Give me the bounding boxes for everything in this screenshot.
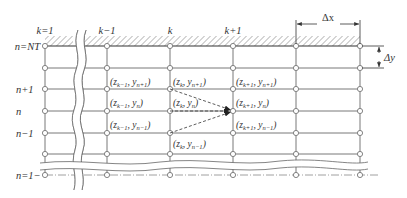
grid-nodes xyxy=(42,43,362,177)
row-label-nt: n=NT xyxy=(15,41,41,52)
row-label-np1: n+1 xyxy=(16,84,34,95)
dx-label: Δx xyxy=(322,12,335,23)
col-label-k1: k=1 xyxy=(37,25,54,36)
dy-dimension xyxy=(362,46,384,68)
horizontal-grid-lines xyxy=(45,46,380,175)
node-label-kp1-nm1: (zk+1, yn−1) xyxy=(236,120,276,131)
dy-label: Δy xyxy=(383,52,395,63)
node-label-k-np1: (zk, yn+1) xyxy=(173,77,206,88)
row-label-n1: n=1− xyxy=(16,170,41,181)
wall-hatching xyxy=(45,36,360,46)
col-label-km1: k−1 xyxy=(99,25,116,36)
row-label-nm1: n−1 xyxy=(16,128,34,139)
node-label-km1-np1: (zk−1, yn+1) xyxy=(110,77,150,88)
node-labels: (zk−1, yn+1) (zk, yn+1) (zk+1, yn+1) (zk… xyxy=(110,77,276,150)
node-label-kp1-n: (zk+1, yn) xyxy=(236,98,269,109)
vertical-grid-lines xyxy=(45,46,360,175)
horizontal-break-lines xyxy=(40,160,368,171)
finite-difference-grid-diagram: Δx Δy k=1 k−1 k k+1 n=NT n+1 n n−1 n=1− … xyxy=(0,0,407,198)
col-label-kp1: k+1 xyxy=(225,25,242,36)
node-label-km1-n: (zk−1, yn) xyxy=(110,98,143,109)
col-label-k: k xyxy=(168,25,173,36)
node-label-kp1-np1: (zk+1, yn+1) xyxy=(236,77,276,88)
row-label-n: n xyxy=(16,106,21,117)
node-label-km1-nm1: (zk−1, yn−1) xyxy=(110,120,150,131)
node-label-k-nm1: (zk, yn−1) xyxy=(173,139,206,150)
node-label-k-n: (zk, yn) xyxy=(173,98,198,109)
